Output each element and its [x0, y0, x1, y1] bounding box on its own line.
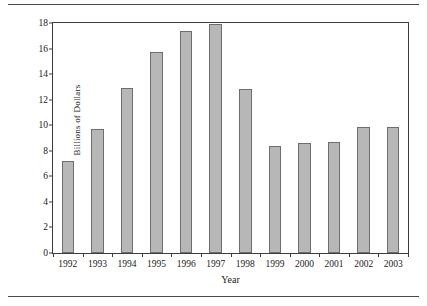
x-axis-tick-mark [290, 253, 291, 257]
x-axis-tick-mark [53, 253, 54, 257]
x-axis-tick-mark [171, 253, 172, 257]
bar-1994 [121, 88, 133, 253]
bar-1995 [150, 52, 162, 253]
y-axis-tick-mark [49, 227, 53, 228]
figure-rule-top [8, 4, 419, 5]
y-axis-tick-mark [49, 48, 53, 49]
x-axis-tick-label: 2001 [325, 259, 344, 269]
x-axis-tick-label: 1996 [177, 259, 196, 269]
x-axis-tick-mark [201, 253, 202, 257]
x-axis-tick-label: 2003 [384, 259, 403, 269]
x-axis-tick-label: 1995 [147, 259, 166, 269]
bar-2002 [357, 127, 369, 253]
bar-1996 [180, 31, 192, 253]
y-axis-tick-mark [49, 201, 53, 202]
x-axis-tick-mark [231, 253, 232, 257]
x-axis-tick-label: 1993 [88, 259, 107, 269]
y-axis-tick-mark [49, 150, 53, 151]
bar-1992 [62, 161, 74, 253]
x-axis-tick-mark [112, 253, 113, 257]
y-axis-tick-mark [49, 23, 53, 24]
bar-1997 [209, 24, 221, 253]
x-axis-tick-label: 2000 [295, 259, 314, 269]
y-axis-tick-mark [49, 125, 53, 126]
y-axis-tick-mark [49, 74, 53, 75]
plot-area: Billions of Dollars Year 024681012141618… [52, 22, 409, 254]
x-axis-tick-mark [83, 253, 84, 257]
x-axis-label: Year [53, 274, 408, 285]
x-axis-tick-label: 1994 [117, 259, 136, 269]
figure-rule-bottom [8, 296, 419, 297]
x-axis-tick-label: 1999 [265, 259, 284, 269]
x-axis-tick-label: 1998 [236, 259, 255, 269]
x-axis-tick-label: 2002 [354, 259, 373, 269]
x-axis-tick-mark [408, 253, 409, 257]
x-axis-tick-label: 1997 [206, 259, 225, 269]
x-axis-tick-mark [319, 253, 320, 257]
y-axis-tick-mark [49, 99, 53, 100]
bar-2001 [328, 142, 340, 253]
bar-1993 [91, 129, 103, 253]
x-axis-tick-mark [260, 253, 261, 257]
bar-chart: Billions of Dollars Year 024681012141618… [0, 0, 427, 306]
x-axis-tick-mark [142, 253, 143, 257]
bar-2003 [387, 127, 399, 253]
bar-1998 [239, 89, 251, 253]
x-axis-tick-mark [378, 253, 379, 257]
bar-1999 [269, 146, 281, 253]
y-axis-tick-mark [49, 176, 53, 177]
x-axis-tick-mark [349, 253, 350, 257]
x-axis-tick-label: 1992 [58, 259, 77, 269]
bar-2000 [298, 143, 310, 253]
